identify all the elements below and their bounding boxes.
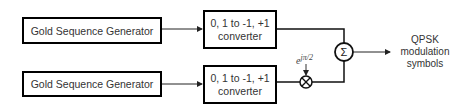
phase-factor-label: ejπ/2 — [296, 53, 313, 66]
output-line1: QPSK — [392, 34, 458, 46]
phase-exponent: jπ/2 — [300, 53, 312, 62]
connector-lines: Σ — [0, 0, 459, 107]
output-line3: symbols — [392, 58, 458, 70]
output-line2: modulation — [392, 46, 458, 58]
line-conv1-to-sum — [277, 29, 344, 43]
output-label: QPSK modulation symbols — [392, 34, 458, 70]
summer-symbol: Σ — [341, 46, 348, 58]
line-mult-to-sum — [312, 61, 344, 82]
